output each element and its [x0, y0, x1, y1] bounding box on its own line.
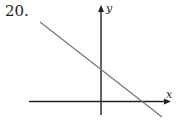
x-axis-label: x: [166, 88, 173, 101]
y-axis-arrow-icon: [98, 5, 104, 12]
y-axis-label: y: [105, 2, 113, 15]
coordinate-graph: y x: [0, 0, 179, 131]
